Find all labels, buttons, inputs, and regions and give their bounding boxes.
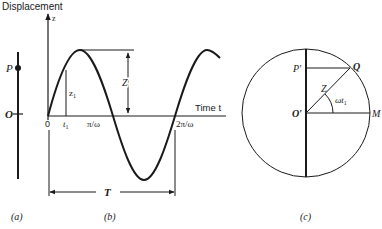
angle-label: ωt1 — [335, 95, 347, 106]
rotating-radius-oq — [306, 68, 350, 113]
sine-curve — [48, 50, 220, 180]
y-axis-title: Displacement — [2, 1, 63, 12]
period-label: T — [104, 186, 112, 198]
panel-a: P O (a) — [5, 52, 23, 223]
half-period-label: π/ω — [87, 119, 100, 129]
label-o-prime: O′ — [292, 108, 302, 119]
panel-c-caption: (c) — [300, 211, 312, 223]
label-o: O — [5, 108, 13, 120]
point-p-dot — [15, 65, 21, 71]
panel-b: Displacement z Time t z1 Z 0 t1 π/ω 2π/ω… — [2, 1, 226, 223]
z1-label: z1 — [69, 88, 76, 99]
radius-label: Z — [321, 83, 327, 94]
angle-arc — [325, 94, 333, 113]
label-m: M — [371, 108, 381, 119]
figure: P O (a) Displacement z Time t z1 Z 0 t1 … — [0, 0, 382, 229]
time-axis-title: Time t — [195, 102, 221, 113]
panel-b-caption: (b) — [104, 211, 116, 223]
label-p: P — [5, 62, 13, 74]
panel-a-caption: (a) — [11, 211, 23, 223]
t1-tick-label: t1 — [63, 119, 69, 130]
panel-c: P′ Q O′ M Z ωt1 (c) — [242, 49, 381, 223]
full-period-label: 2π/ω — [176, 119, 194, 129]
amplitude-label: Z — [122, 77, 128, 88]
y-axis-symbol: z — [52, 14, 56, 23]
label-q: Q — [353, 61, 360, 72]
label-p-prime: P′ — [292, 63, 302, 74]
origin-label: 0 — [45, 119, 50, 129]
